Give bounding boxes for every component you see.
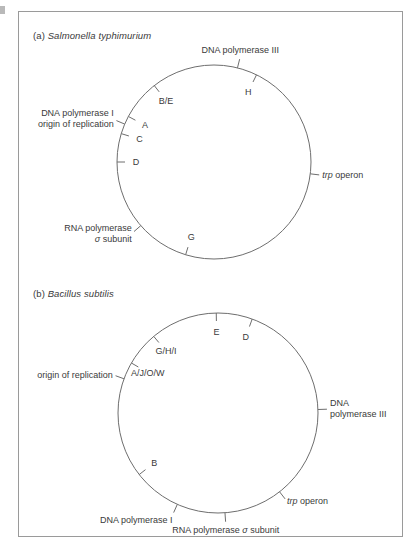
chromosome-circle-b (118, 313, 318, 513)
rna-polymerase-sigma-subunit-label-a: RNA polymeraseσ subunit (64, 223, 132, 245)
trp-operon-italic: trp (322, 170, 333, 180)
gene-marker-ajow-label: A/J/O/W (131, 368, 165, 378)
panel-a-title: (a) Salmonella typhimurium (33, 30, 151, 41)
gene-marker-ghi-label: G/H/I (155, 346, 176, 356)
gene-marker-e-label: E (214, 327, 220, 337)
rna-polymerase-sigma-subunit-leader-a (134, 226, 141, 232)
gene-marker-a-tick (128, 116, 135, 120)
gene-marker-g-tick (186, 247, 188, 255)
sigma-symbol: σ (242, 525, 247, 535)
gene-marker-c-label: C (136, 134, 143, 144)
genome-map-svg (0, 0, 417, 557)
rna-polymerase-sigma-subunit-leader-b (225, 513, 226, 522)
dna-polymerase-iii-leader-a (237, 59, 239, 68)
origin-of-replication-leader-b (116, 376, 124, 379)
gene-marker-g-label: G (188, 232, 195, 242)
dna-polymerase-i-origin-of-replication-label-a: DNA polymerase Iorigin of replication (38, 108, 114, 130)
trp-operon-leader-b (280, 492, 286, 499)
dna-polymerase-i-origin-of-replication-leader-a (116, 121, 124, 125)
trp-operon-label-a: trp operon (322, 170, 363, 181)
trp-operon-leader-a (310, 174, 319, 175)
figure-root: (a) Salmonella typhimurium (b) Bacillus … (0, 0, 417, 557)
gene-marker-d-label: D (242, 332, 249, 342)
gene-marker-d-label: D (133, 157, 140, 167)
dna-polymerase-iii-label-a: DNA polymerase III (202, 45, 280, 56)
sigma-symbol: σ (95, 234, 100, 244)
gene-marker-c-tick (121, 134, 129, 136)
rna-polymerase-sigma-subunit-label-b: RNA polymerase σ subunit (172, 525, 279, 536)
gene-marker-d-tick (249, 319, 252, 327)
chromosome-circle-a (117, 65, 311, 259)
origin-of-replication-label-b: origin of replication (37, 369, 113, 380)
gene-marker-b-tick (139, 470, 145, 475)
panel-b-tag: (b) (33, 288, 45, 299)
gene-marker-be-label: B/E (159, 96, 174, 106)
dna-polymerase-i-leader-b (174, 504, 178, 512)
gene-marker-h-label: H (245, 87, 252, 97)
dna-polymerase-i-label-b: DNA polymerase I (100, 515, 173, 526)
gene-marker-a-label: A (142, 120, 148, 130)
panel-b-title: (b) Bacillus subtilis (33, 288, 114, 299)
gene-marker-be-tick (154, 86, 159, 92)
panel-a-tag: (a) (33, 30, 45, 41)
trp-operon-italic: trp (287, 496, 298, 506)
dna-polymerase-iii-label-b: DNApolymerase III (330, 398, 387, 420)
gene-marker-h-tick (253, 75, 257, 82)
gene-marker-b-label: B (151, 458, 157, 468)
panel-a-species: Salmonella typhimurium (48, 30, 152, 41)
gene-marker-ajow-tick (131, 363, 138, 367)
gene-marker-ghi-tick (154, 336, 159, 342)
trp-operon-label-b: trp operon (287, 496, 328, 507)
panel-b-species: Bacillus subtilis (48, 288, 114, 299)
